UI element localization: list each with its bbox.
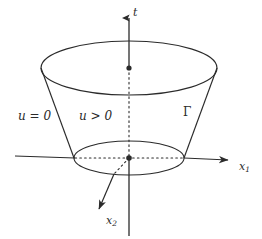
x1-axis-left-segment — [15, 156, 75, 158]
x1-axis-label-subscript: 1 — [245, 165, 250, 174]
x2-axis-visible-segment — [99, 174, 114, 209]
u-greater-than-zero-label: u > 0 — [79, 110, 112, 122]
x2-axis-hidden-segment — [114, 158, 129, 174]
gamma-boundary-label: Γ — [183, 106, 191, 118]
x1-axis-right-segment — [184, 158, 228, 160]
cone-top-center-dot — [126, 65, 131, 70]
cone-diagram-figure: t x1 x2 u = 0 u > 0 Γ — [0, 0, 262, 239]
x2-axis-label: x2 — [106, 215, 117, 228]
origin-dot — [126, 155, 132, 161]
u-equals-zero-label: u = 0 — [18, 110, 51, 122]
x2-axis-label-subscript: 2 — [112, 219, 117, 228]
t-axis-label: t — [133, 7, 137, 18]
x1-axis-label: x1 — [239, 161, 250, 174]
